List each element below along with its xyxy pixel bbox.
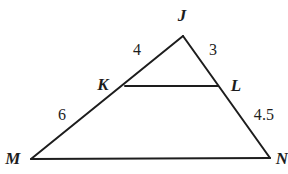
vertex-label-m: M (5, 150, 20, 167)
segment-jn (183, 36, 270, 158)
vertex-label-l: L (231, 77, 242, 94)
segment-mn (31, 158, 270, 159)
vertex-label-j: J (178, 7, 187, 24)
triangle-diagram-canvas (0, 0, 288, 174)
measure-label-jl: 3 (209, 42, 217, 58)
measure-label-km: 6 (58, 107, 66, 123)
measure-label-ln: 4.5 (254, 107, 275, 123)
measure-label-jk: 4 (133, 42, 141, 58)
segment-jm (31, 36, 183, 159)
vertex-label-k: K (97, 76, 109, 93)
geometry-figure: J K L M N 4 3 6 4.5 (0, 0, 288, 174)
vertex-label-n: N (276, 150, 288, 167)
